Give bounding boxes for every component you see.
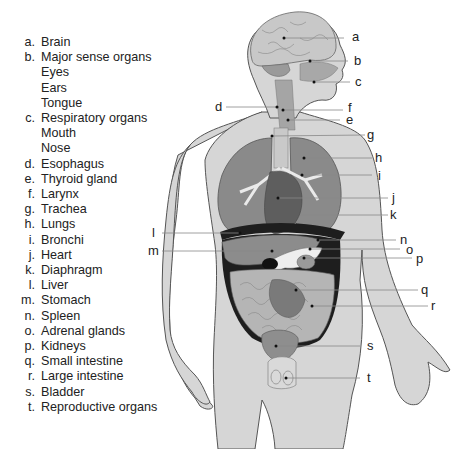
stomach-dark-region xyxy=(262,258,278,270)
callout-o: o xyxy=(406,242,413,257)
callout-g: g xyxy=(367,127,374,142)
callout-p: p xyxy=(416,251,423,266)
callout-a: a xyxy=(352,29,360,44)
anatomy-figure: a b c d f e g h i j k l m n o p q r s t xyxy=(0,0,456,449)
brain-illustration xyxy=(251,12,336,66)
callout-t: t xyxy=(367,370,371,385)
callout-r: r xyxy=(431,298,436,313)
callout-m: m xyxy=(148,243,159,258)
callout-h: h xyxy=(375,150,382,165)
trachea xyxy=(274,128,288,168)
callout-j: j xyxy=(391,190,395,205)
callout-d: d xyxy=(215,99,222,114)
callout-l: l xyxy=(152,225,155,240)
callout-s: s xyxy=(367,338,374,353)
callout-q: q xyxy=(421,282,428,297)
kidney xyxy=(297,255,315,269)
callout-i: i xyxy=(378,168,381,183)
callout-e: e xyxy=(346,112,353,127)
callout-b: b xyxy=(354,53,361,68)
callout-k: k xyxy=(390,207,397,222)
callout-c: c xyxy=(355,74,362,89)
